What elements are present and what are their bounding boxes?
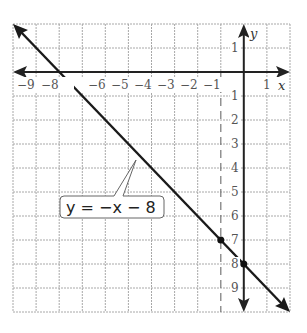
y-axis-label: y (249, 26, 258, 41)
point-0-neg8 (240, 261, 247, 268)
x-axis-label: x (278, 78, 286, 93)
y-tick-label: 6 (231, 209, 239, 223)
x-tick-label: −9 (17, 78, 35, 92)
x-tick-labels: −9 −8 −6 −5 −4 −3 −2 −1 1 x (14, 77, 288, 93)
y-tick-label: 1 (231, 89, 239, 103)
y-tick-label: 5 (231, 185, 239, 199)
y-tick-label: 8 (231, 257, 239, 271)
point-neg1-neg7 (217, 237, 224, 244)
equation-callout: y = −x − 8 (60, 160, 164, 218)
x-tick-label: −2 (180, 78, 198, 92)
y-tick-label: 9 (231, 281, 239, 295)
y-tick-label: 4 (231, 161, 239, 175)
x-tick-label: −6 (88, 78, 106, 92)
x-tick-label: −3 (157, 78, 175, 92)
y-tick-labels: 1 1 2 3 4 5 6 7 8 9 (230, 41, 240, 295)
y-tick-label: 1 (231, 41, 239, 55)
x-tick-label: −5 (111, 78, 129, 92)
coordinate-plane: −9 −8 −6 −5 −4 −3 −2 −1 1 x y 1 1 2 3 4 … (0, 0, 307, 333)
x-tick-label: −4 (134, 78, 152, 92)
x-tick-label: −1 (203, 78, 221, 92)
equation-label: y = −x − 8 (66, 198, 156, 217)
y-tick-label: 7 (231, 233, 239, 247)
x-tick-label: 1 (263, 78, 271, 92)
y-tick-label: 2 (231, 113, 239, 127)
y-tick-label: 3 (231, 137, 239, 151)
x-tick-label: −8 (41, 78, 59, 92)
